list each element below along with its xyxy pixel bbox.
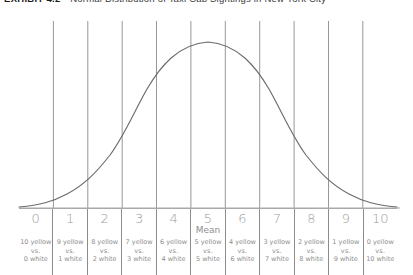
axis-ratio-8: 2 yellow vs. 8 white [295, 238, 328, 264]
axis-ratio-10: 0 yellow vs. 10 white [364, 238, 397, 264]
ratio-white-5: 5 white [191, 255, 224, 264]
gridlines [53, 21, 362, 208]
ratio-white-6: 6 white [226, 255, 259, 264]
normal-distribution-chart [0, 18, 413, 212]
ratio-yellow-4: 6 yellow [157, 238, 190, 247]
ratio-vs-8: vs. [295, 247, 328, 256]
axis-number-9: 9 [329, 211, 362, 226]
ratio-yellow-7: 3 yellow [260, 238, 293, 247]
ratio-white-8: 8 white [295, 255, 328, 264]
axis-mean-0 [19, 226, 52, 235]
axis-ratio-0: 10 yellow vs. 0 white [19, 238, 52, 264]
ratio-yellow-10: 0 yellow [364, 238, 397, 247]
axis-ratio-7: 3 yellow vs. 7 white [260, 238, 293, 264]
axis-column-7: 7 3 yellow vs. 7 white [260, 209, 294, 275]
exhibit-caption: Normal Distribution of Taxi Cab Sighting… [70, 0, 326, 4]
ratio-white-1: 1 white [53, 255, 86, 264]
ratio-vs-6: vs. [226, 247, 259, 256]
axis-ratio-1: 9 yellow vs. 1 white [53, 238, 86, 264]
ratio-yellow-6: 4 yellow [226, 238, 259, 247]
axis-number-5: 5 [191, 211, 224, 226]
axis-column-2: 2 8 yellow vs. 2 white [88, 209, 122, 275]
ratio-yellow-8: 2 yellow [295, 238, 328, 247]
axis-number-10: 10 [364, 211, 397, 226]
axis-column-10: 10 0 yellow vs. 10 white [364, 209, 397, 275]
axis-column-0: 0 10 yellow vs. 0 white [19, 209, 53, 275]
ratio-vs-7: vs. [260, 247, 293, 256]
axis-number-8: 8 [295, 211, 328, 226]
axis-mean-3 [122, 226, 155, 235]
axis-ratio-9: 1 yellow vs. 9 white [329, 238, 362, 264]
axis-mean-7 [260, 226, 293, 235]
axis-mean-2 [88, 226, 121, 235]
axis-mean-9 [329, 226, 362, 235]
axis-ratio-6: 4 yellow vs. 6 white [226, 238, 259, 264]
axis-number-6: 6 [226, 211, 259, 226]
ratio-vs-1: vs. [53, 247, 86, 256]
axis-number-1: 1 [53, 211, 86, 226]
bell-curve-path [19, 42, 397, 207]
ratio-yellow-1: 9 yellow [53, 238, 86, 247]
axis-mean-8 [295, 226, 328, 235]
axis-column-4: 4 6 yellow vs. 4 white [157, 209, 191, 275]
ratio-white-9: 9 white [329, 255, 362, 264]
axis-number-7: 7 [260, 211, 293, 226]
axis-number-0: 0 [19, 211, 52, 226]
exhibit-title: EXHIBIT 4.2 Normal Distribution of Taxi … [4, 0, 409, 7]
ratio-white-2: 2 white [88, 255, 121, 264]
axis-number-3: 3 [122, 211, 155, 226]
axis-ratio-4: 6 yellow vs. 4 white [157, 238, 190, 264]
axis-mean-4 [157, 226, 190, 235]
axis-mean-6 [226, 226, 259, 235]
ratio-white-3: 3 white [122, 255, 155, 264]
axis-column-5: 5 Mean 5 yellow vs. 5 white [191, 209, 225, 275]
ratio-vs-10: vs. [364, 247, 397, 256]
axis-column-6: 6 4 yellow vs. 6 white [226, 209, 260, 275]
axis-number-2: 2 [88, 211, 121, 226]
ratio-vs-4: vs. [157, 247, 190, 256]
axis-mean-10 [364, 226, 397, 235]
ratio-yellow-0: 10 yellow [19, 238, 52, 247]
ratio-yellow-2: 8 yellow [88, 238, 121, 247]
ratio-yellow-9: 1 yellow [329, 238, 362, 247]
axis-column-3: 3 7 yellow vs. 3 white [122, 209, 156, 275]
mean-label: Mean [191, 226, 224, 235]
axis-ratio-3: 7 yellow vs. 3 white [122, 238, 155, 264]
ratio-vs-3: vs. [122, 247, 155, 256]
ratio-white-7: 7 white [260, 255, 293, 264]
ratio-white-10: 10 white [364, 255, 397, 264]
ratio-vs-9: vs. [329, 247, 362, 256]
bell-curve-svg [0, 18, 413, 212]
ratio-vs-2: vs. [88, 247, 121, 256]
ratio-white-0: 0 white [19, 255, 52, 264]
ratio-white-4: 4 white [157, 255, 190, 264]
exhibit-number: EXHIBIT 4.2 [4, 0, 61, 4]
ratio-yellow-5: 5 yellow [191, 238, 224, 247]
ratio-yellow-3: 7 yellow [122, 238, 155, 247]
axis-column-1: 1 9 yellow vs. 1 white [53, 209, 87, 275]
axis-ratio-5: 5 yellow vs. 5 white [191, 238, 224, 264]
axis-ratio-2: 8 yellow vs. 2 white [88, 238, 121, 264]
axis-column-8: 8 2 yellow vs. 8 white [295, 209, 329, 275]
axis-number-4: 4 [157, 211, 190, 226]
axis-column-9: 9 1 yellow vs. 9 white [329, 209, 363, 275]
ratio-vs-5: vs. [191, 247, 224, 256]
ratio-vs-0: vs. [19, 247, 52, 256]
axis-label-band: 0 10 yellow vs. 0 white 1 9 yellow vs. 1… [19, 208, 397, 275]
axis-mean-1 [53, 226, 86, 235]
